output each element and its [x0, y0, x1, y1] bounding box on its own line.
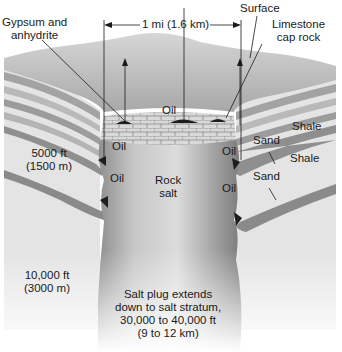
label-oil-left-lower: Oil [110, 172, 124, 185]
label-gypsum-anhydrite: Gypsum and anhydrite [2, 16, 67, 42]
label-depth-5000: 5000 ft (1500 m) [26, 147, 72, 173]
label-depth-10000: 10,000 ft (3000 m) [24, 269, 70, 295]
label-shale-lower: Shale [290, 152, 319, 165]
label-limestone-cap-rock: Limestone cap rock [272, 18, 325, 44]
label-oil-right-lower: Oil [222, 182, 236, 195]
label-rock-salt: Rock salt [155, 174, 181, 200]
label-oil-right-upper: Oil [222, 145, 236, 158]
label-oil-left-upper: Oil [112, 140, 126, 153]
label-sand-upper: Sand [253, 134, 280, 147]
label-surface: Surface [240, 2, 280, 15]
label-shale-upper: Shale [292, 120, 321, 133]
label-oil-cap: Oil [162, 104, 176, 117]
label-width-marker: 1 mi (1.6 km) [142, 18, 209, 31]
label-salt-plug: Salt plug extends down to salt stratum, … [115, 288, 221, 340]
label-sand-lower: Sand [253, 170, 280, 183]
